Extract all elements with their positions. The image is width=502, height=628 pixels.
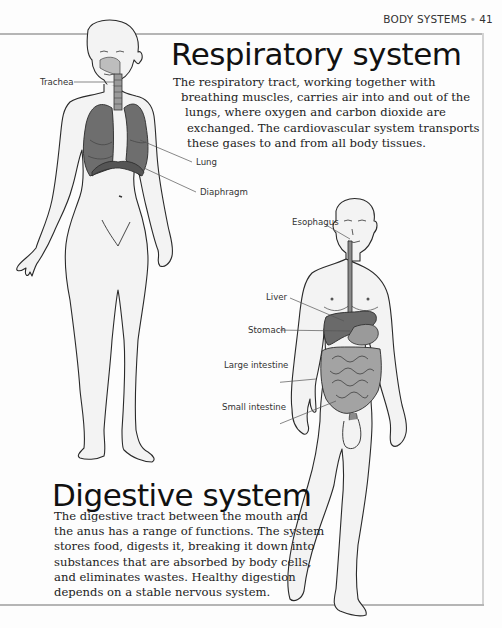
digestive-system-paragraph: The digestive tract between the mouth an…	[54, 509, 324, 600]
label-large-intestine: Large intestine	[224, 360, 288, 370]
esophagus-icon	[348, 241, 352, 317]
paragraph-line: The digestive tract between the mouth an…	[54, 509, 324, 524]
running-head-section: BODY SYSTEMS	[383, 13, 466, 25]
paragraph-line: exchanged. The cardiovascular system tra…	[173, 121, 480, 136]
paragraph-line: the anus has a range of functions. The s…	[54, 524, 324, 539]
label-small-intestine: Small intestine	[222, 402, 286, 412]
label-stomach: Stomach	[248, 325, 286, 335]
label-lung: Lung	[196, 157, 217, 167]
page-number: 41	[479, 13, 493, 25]
paragraph-line: substances that are absorbed by body cel…	[54, 555, 324, 570]
paragraph-line: depends on a stable nervous system.	[54, 585, 324, 600]
bullet-separator-icon: •	[470, 13, 476, 25]
label-liver: Liver	[266, 292, 287, 302]
paragraph-line: lungs, where oxygen and carbon dioxide a…	[173, 105, 480, 120]
book-page: BODY SYSTEMS•41	[0, 0, 502, 628]
running-head: BODY SYSTEMS•41	[383, 13, 493, 25]
paragraph-line: these gases to and from all body tissues…	[173, 136, 480, 151]
digestive-system-heading: Digestive system	[52, 477, 312, 513]
respiratory-system-heading: Respiratory system	[171, 36, 462, 72]
female-body-icon	[0, 0, 260, 480]
label-trachea: Trachea	[40, 77, 74, 87]
respiratory-system-paragraph: The respiratory tract, working together …	[173, 75, 480, 151]
paragraph-line: The respiratory tract, working together …	[173, 75, 480, 90]
label-diaphragm: Diaphragm	[200, 187, 248, 197]
female-figure-respiratory-illustration	[0, 0, 260, 480]
paragraph-line: stores food, digests it, breaking it dow…	[54, 539, 324, 554]
paragraph-line: and eliminates wastes. Healthy digestion	[54, 570, 324, 585]
paragraph-line: breathing muscles, carries air into and …	[173, 90, 480, 105]
right-border-divider	[482, 33, 484, 606]
label-esophagus: Esophagus	[292, 217, 339, 227]
